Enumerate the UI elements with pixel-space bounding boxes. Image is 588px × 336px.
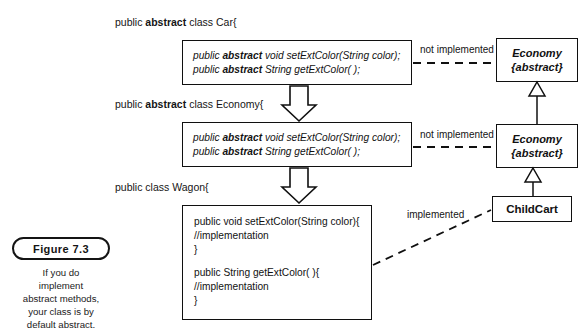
block-arrow-down-1 bbox=[282, 86, 316, 121]
uml-box-stereotype: {abstract} bbox=[511, 60, 562, 74]
decl-car-suffix: class Car{ bbox=[186, 16, 236, 28]
class-declaration-economy: public abstract class Economy{ bbox=[115, 98, 263, 110]
uml-box-economy-mid: Economy {abstract} bbox=[496, 124, 578, 168]
code-line: public String getExtColor( ){ bbox=[194, 266, 319, 279]
class-declaration-wagon: public class Wagon{ bbox=[115, 181, 209, 193]
decl-economy-prefix: public bbox=[115, 98, 145, 110]
code-seg-post: void setExtColor(String color); bbox=[262, 132, 400, 143]
figure-caption-line: implement bbox=[6, 279, 116, 292]
uml-box-title: Economy bbox=[512, 46, 562, 60]
figure-caption: If you do implement abstract methods, yo… bbox=[6, 266, 116, 331]
code-line: } bbox=[194, 294, 197, 307]
code-seg-pre: public bbox=[193, 50, 222, 61]
connector-label-not-implemented-top: not implemented bbox=[420, 44, 494, 56]
decl-economy-keyword: abstract bbox=[145, 98, 186, 110]
code-line: public abstract void setExtColor(String … bbox=[193, 131, 400, 144]
code-box-wagon: public void setExtColor(String color){ /… bbox=[182, 205, 372, 320]
class-declaration-car: public abstract class Car{ bbox=[115, 16, 236, 28]
code-seg-post: String getExtColor( ); bbox=[262, 64, 360, 75]
code-line: public abstract String getExtColor( ); bbox=[193, 63, 360, 76]
code-seg-pre: public bbox=[193, 64, 222, 75]
figure-canvas: public abstract class Car{ public abstra… bbox=[0, 0, 588, 336]
code-box-economy: public abstract void setExtColor(String … bbox=[182, 122, 412, 167]
code-seg-post: String getExtColor( ); bbox=[262, 146, 360, 157]
figure-badge: Figure 7.3 bbox=[12, 237, 110, 260]
figure-caption-line: default abstract. bbox=[6, 318, 116, 331]
code-line: public abstract void setExtColor(String … bbox=[193, 49, 400, 62]
code-line: public abstract String getExtColor( ); bbox=[193, 145, 360, 158]
figure-badge-label: Figure 7.3 bbox=[33, 243, 89, 255]
code-seg-pre: public bbox=[193, 146, 222, 157]
uml-box-stereotype: {abstract} bbox=[511, 146, 562, 160]
code-line: //implementation bbox=[194, 229, 269, 242]
uml-box-title: ChildCart bbox=[506, 202, 558, 216]
code-seg-bold: abstract bbox=[222, 146, 262, 157]
code-line: public void setExtColor(String color){ bbox=[194, 215, 359, 228]
decl-wagon-prefix: public class Wagon{ bbox=[115, 181, 209, 193]
generalization-arrow-mid-to-top bbox=[529, 82, 545, 124]
connector-label-implemented: implemented bbox=[407, 209, 464, 221]
code-box-car: public abstract void setExtColor(String … bbox=[182, 40, 412, 85]
figure-caption-line: your class is by bbox=[6, 305, 116, 318]
figure-caption-line: abstract methods, bbox=[6, 292, 116, 305]
code-seg-bold: abstract bbox=[222, 50, 262, 61]
block-arrow-down-2 bbox=[282, 168, 316, 203]
decl-car-prefix: public bbox=[115, 16, 145, 28]
decl-car-keyword: abstract bbox=[145, 16, 186, 28]
uml-box-economy-top: Economy {abstract} bbox=[496, 38, 578, 82]
code-seg-bold: abstract bbox=[222, 132, 262, 143]
connector-label-not-implemented-mid: not implemented bbox=[420, 129, 494, 141]
code-seg-bold: abstract bbox=[222, 64, 262, 75]
generalization-arrow-child-to-mid bbox=[525, 168, 541, 196]
figure-caption-line: If you do bbox=[6, 266, 116, 279]
uml-box-childcart: ChildCart bbox=[492, 196, 572, 222]
code-seg-pre: public bbox=[193, 132, 222, 143]
decl-economy-suffix: class Economy{ bbox=[186, 98, 263, 110]
code-line: //implementation bbox=[194, 280, 269, 293]
uml-box-title: Economy bbox=[512, 132, 562, 146]
code-line: } bbox=[194, 243, 197, 256]
code-seg-post: void setExtColor(String color); bbox=[262, 50, 400, 61]
